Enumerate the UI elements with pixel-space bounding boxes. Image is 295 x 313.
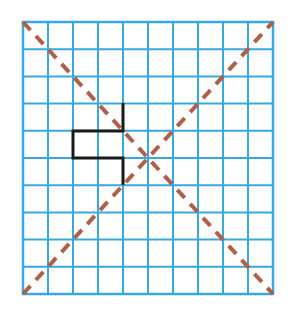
grid-figure-svg (0, 0, 295, 313)
figure-container (0, 0, 295, 313)
